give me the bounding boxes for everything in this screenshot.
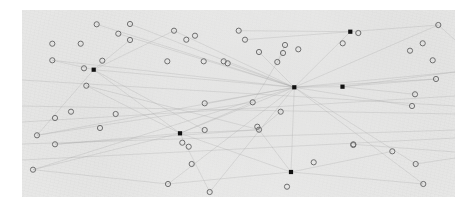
- node-marker: [52, 142, 57, 147]
- node-marker: [202, 127, 207, 132]
- node-marker: [407, 48, 412, 53]
- node-marker: [420, 41, 425, 46]
- hub-node-marker: [178, 131, 182, 135]
- node-marker: [278, 109, 283, 114]
- node-marker: [275, 59, 280, 64]
- node-marker: [165, 59, 170, 64]
- node-marker: [165, 181, 170, 186]
- node-marker: [296, 47, 301, 52]
- node-marker: [97, 125, 102, 130]
- node-marker: [127, 37, 132, 42]
- node-marker: [202, 101, 207, 106]
- node-marker: [30, 167, 35, 172]
- node-marker: [113, 111, 118, 116]
- node-marker: [436, 22, 441, 27]
- node-marker: [68, 109, 73, 114]
- node-marker: [430, 58, 435, 63]
- node-marker: [34, 133, 39, 138]
- node-marker: [116, 31, 121, 36]
- node-marker: [186, 144, 191, 149]
- hub-node-marker: [292, 85, 296, 89]
- node-marker: [100, 58, 105, 63]
- node-marker: [81, 66, 86, 71]
- node-marker: [180, 140, 185, 145]
- node-marker: [284, 184, 289, 189]
- node-marker: [236, 28, 241, 33]
- hub-node-marker: [92, 68, 96, 72]
- screenshot-root: [0, 0, 467, 212]
- node-marker: [171, 28, 176, 33]
- node-marker: [421, 181, 426, 186]
- node-marker: [52, 115, 57, 120]
- node-marker: [280, 50, 285, 55]
- node-marker: [207, 189, 212, 194]
- node-marker: [390, 149, 395, 154]
- hub-node-marker: [340, 85, 344, 89]
- node-marker: [94, 22, 99, 27]
- node-marker: [282, 42, 287, 47]
- node-marker: [50, 41, 55, 46]
- node-marker: [78, 41, 83, 46]
- node-marker: [433, 76, 438, 81]
- node-marker: [84, 83, 89, 88]
- node-layer: [22, 10, 455, 197]
- node-marker: [184, 37, 189, 42]
- node-marker: [127, 21, 132, 26]
- scatter-plot-panel: [22, 10, 455, 197]
- node-marker: [256, 49, 261, 54]
- node-marker: [242, 37, 247, 42]
- node-marker: [356, 30, 361, 35]
- node-marker: [50, 58, 55, 63]
- node-marker: [413, 161, 418, 166]
- node-marker: [250, 100, 255, 105]
- node-marker: [192, 33, 197, 38]
- node-marker: [311, 160, 316, 165]
- node-marker: [201, 59, 206, 64]
- hub-node-marker: [348, 30, 352, 34]
- hub-node-marker: [289, 170, 293, 174]
- node-marker: [409, 103, 414, 108]
- node-marker: [189, 161, 194, 166]
- node-marker: [340, 41, 345, 46]
- node-marker: [412, 92, 417, 97]
